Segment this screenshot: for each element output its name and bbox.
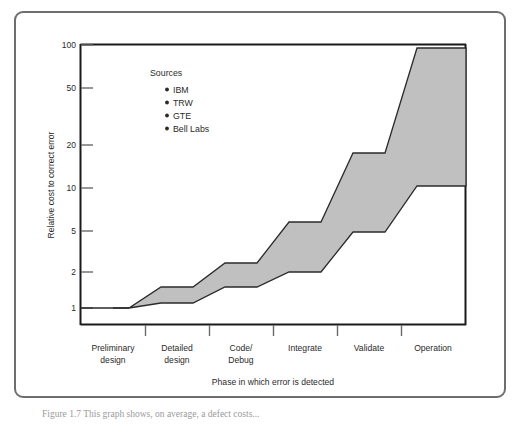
y-tick-label-5: 5 bbox=[71, 226, 76, 236]
legend-item-ibm: IBM bbox=[173, 85, 189, 95]
legend-title: Sources bbox=[150, 68, 183, 78]
x-category-label-validate: Validate bbox=[354, 343, 385, 353]
x-category-labels: Preliminary design Detailed design Code/… bbox=[92, 343, 453, 365]
legend-item-gte: GTE bbox=[173, 111, 191, 121]
cost-band-series bbox=[81, 48, 466, 308]
bullet-icon bbox=[165, 127, 169, 131]
legend-item-bell-labs: Bell Labs bbox=[173, 124, 210, 134]
x-category-label-detailed-design-line2: design bbox=[164, 355, 190, 365]
bullet-icon bbox=[165, 101, 169, 105]
bullet-icon bbox=[165, 114, 169, 118]
figure-caption: Figure 1.7 This graph shows, on average,… bbox=[42, 409, 502, 419]
y-tick-label-2: 2 bbox=[71, 267, 76, 277]
sources-legend: Sources IBM TRW GTE Bell Labs bbox=[150, 68, 210, 134]
x-category-label-preliminary-design-line1: Preliminary bbox=[92, 343, 136, 353]
x-axis-title: Phase in which error is detected bbox=[212, 377, 335, 387]
y-tick-label-50: 50 bbox=[67, 83, 77, 93]
x-category-label-code-debug-line1: Code/ bbox=[230, 343, 254, 353]
figure-page: 100 50 20 10 5 2 1 Relative cost to corr… bbox=[0, 0, 521, 424]
y-tick-label-100: 100 bbox=[62, 40, 76, 50]
y-tick-label-20: 20 bbox=[67, 140, 77, 150]
cost-to-correct-error-chart: 100 50 20 10 5 2 1 Relative cost to corr… bbox=[0, 0, 521, 424]
relative-cost-range-band bbox=[113, 48, 466, 308]
x-category-label-code-debug-line2: Debug bbox=[228, 355, 254, 365]
legend-item-trw: TRW bbox=[173, 98, 194, 108]
y-tick-label-10: 10 bbox=[67, 183, 77, 193]
x-axis-ticks bbox=[146, 325, 402, 336]
y-tick-label-1: 1 bbox=[71, 303, 76, 313]
x-category-label-integrate: Integrate bbox=[288, 343, 322, 353]
x-category-label-detailed-design-line1: Detailed bbox=[161, 343, 193, 353]
y-axis-title: Relative cost to correct error bbox=[46, 131, 56, 238]
x-category-label-preliminary-design-line2: design bbox=[100, 355, 126, 365]
y-axis-ticks bbox=[81, 45, 93, 308]
y-tick-labels: 100 50 20 10 5 2 1 bbox=[62, 40, 76, 313]
bullet-icon bbox=[165, 88, 169, 92]
x-category-label-operation: Operation bbox=[414, 343, 452, 353]
